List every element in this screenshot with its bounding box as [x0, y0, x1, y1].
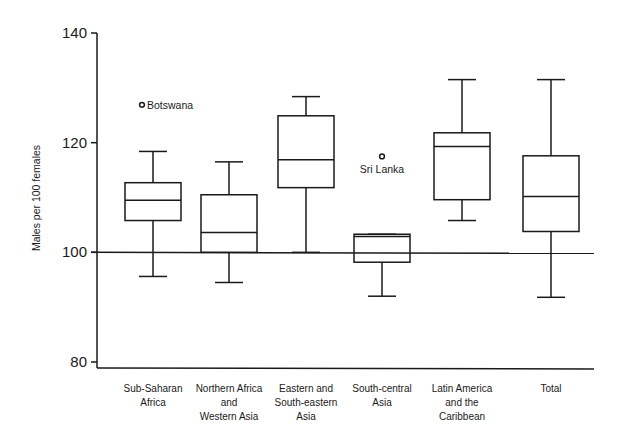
iqr-box: [434, 133, 490, 200]
category-labels: Sub-SaharanAfricaNorthern AfricaandWeste…: [124, 383, 562, 422]
category-label: and: [221, 397, 238, 408]
iqr-box: [354, 234, 410, 262]
category-label: Asia: [296, 411, 316, 422]
outlier-marker: [380, 154, 385, 159]
boxes: BotswanaSri Lanka: [125, 80, 579, 298]
box-total: [523, 80, 579, 298]
box-latin-america-and-the-caribbean: [434, 80, 490, 221]
reference-line: [91, 252, 594, 253]
boxplot-chart: 80100120140 BotswanaSri Lanka Sub-Sahara…: [0, 0, 624, 446]
y-axis-label: Males per 100 females: [30, 145, 42, 251]
category-label: South-central: [352, 383, 411, 394]
outlier-label: Sri Lanka: [360, 163, 405, 175]
box-sub-saharan-africa: Botswana: [125, 99, 193, 277]
box-eastern-and-south-eastern-asia: [278, 97, 334, 253]
category-label: Sub-Saharan: [124, 383, 183, 394]
y-tick-label: 100: [62, 243, 87, 260]
outlier-label: Botswana: [147, 99, 193, 111]
box-northern-africa-and-western-asia: [201, 162, 257, 283]
y-tick-label: 80: [70, 353, 87, 370]
outlier-marker: [140, 102, 145, 107]
iqr-box: [201, 195, 257, 253]
category-label: and the: [445, 397, 479, 408]
category-label: Total: [540, 383, 561, 394]
y-tick-label: 140: [62, 24, 87, 41]
category-label: Asia: [372, 397, 392, 408]
iqr-box: [523, 156, 579, 232]
category-label: South-eastern: [275, 397, 338, 408]
y-tick-label: 120: [62, 134, 87, 151]
box-south-central-asia: Sri Lanka: [354, 154, 410, 296]
category-label: Latin America: [432, 383, 493, 394]
x-axis: [97, 368, 594, 369]
reference-line-100: [91, 252, 594, 253]
iqr-box: [278, 116, 334, 188]
iqr-box: [125, 183, 181, 221]
category-label: Caribbean: [439, 411, 485, 422]
category-label: Western Asia: [200, 411, 259, 422]
category-label: Africa: [140, 397, 166, 408]
category-label: Northern Africa: [196, 383, 263, 394]
category-label: Eastern and: [279, 383, 333, 394]
